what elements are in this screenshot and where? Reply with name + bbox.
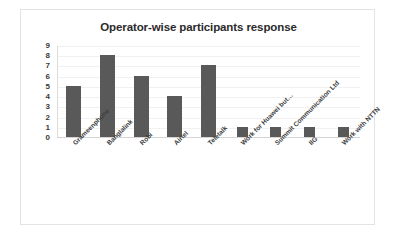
y-axis-tick-label: 2	[46, 114, 50, 122]
plot-area	[57, 46, 360, 138]
bar	[66, 86, 81, 137]
x-axis-tick-label: IIG	[308, 142, 313, 147]
x-axis-tick-label: Banglalink	[106, 142, 111, 147]
bar	[201, 65, 216, 137]
y-axis-tick-label: 0	[46, 134, 50, 142]
x-axis-tick-label: Airtel	[173, 142, 178, 147]
chart-title: Operator-wise participants response	[21, 21, 376, 33]
chart-frame: Operator-wise participants response 9876…	[20, 9, 375, 225]
x-axis-tick-label: Summit Communication Ltd	[274, 142, 279, 147]
bar-series	[57, 46, 360, 138]
y-axis-tick-label: 5	[46, 83, 50, 91]
bar	[100, 55, 115, 137]
x-axis-tick-label: Work for Huawei but…	[240, 142, 245, 147]
y-axis-tick-label: 7	[46, 62, 50, 70]
bar	[167, 96, 182, 137]
x-axis-tick-labels: GrameenphoneBanglalinkRobiAirtelTeletalk…	[57, 140, 360, 224]
x-axis-tick-label: Teletalk	[207, 142, 212, 147]
bar	[134, 76, 149, 137]
y-axis-tick-labels: 9876543210	[21, 40, 53, 139]
x-axis-tick-label: Work with NTTN	[341, 142, 346, 147]
y-axis-tick-label: 1	[46, 124, 50, 132]
x-axis-tick-label: Grameenphone	[72, 142, 77, 147]
y-axis-tick-label: 3	[46, 103, 50, 111]
y-axis-tick-label: 6	[46, 73, 50, 81]
y-axis-tick-label: 4	[46, 93, 50, 101]
y-axis-tick-label: 8	[46, 52, 50, 60]
x-axis-tick-label: Robi	[139, 142, 144, 147]
y-axis-tick-label: 9	[46, 42, 50, 50]
